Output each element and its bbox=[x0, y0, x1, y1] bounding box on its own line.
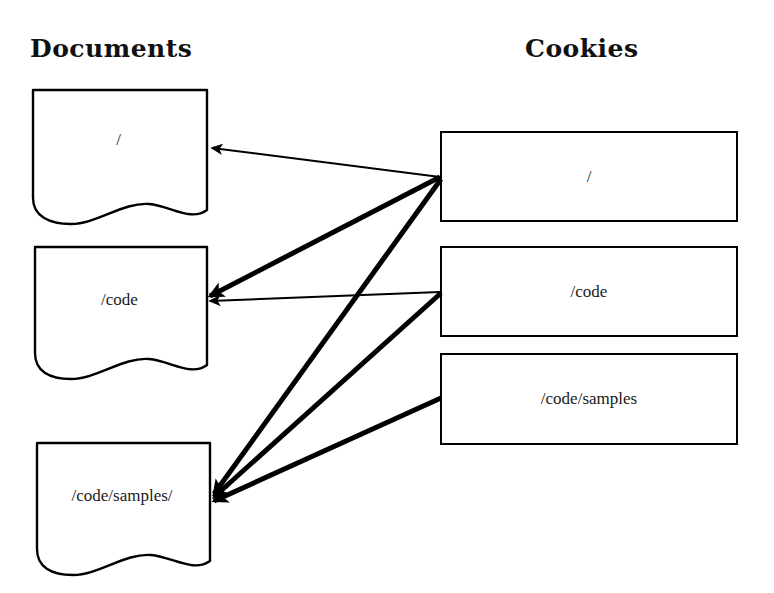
cookie-node-code[interactable]: /code bbox=[440, 246, 738, 337]
arrow-root-to-code-samples bbox=[214, 179, 441, 494]
document-page-shape bbox=[31, 88, 211, 228]
document-label: /code bbox=[33, 290, 206, 310]
arrow-root-to-root bbox=[212, 148, 440, 177]
arrow-root-to-code bbox=[210, 177, 440, 296]
document-label: /code/samples/ bbox=[35, 486, 209, 506]
document-node-code[interactable]: /code bbox=[33, 245, 206, 376]
document-page-shape bbox=[33, 245, 213, 385]
arrow-code-to-code bbox=[210, 292, 440, 301]
document-node-code-samples[interactable]: /code/samples/ bbox=[35, 441, 209, 571]
cookie-node-code-samples[interactable]: /code/samples bbox=[440, 353, 738, 445]
diagram-canvas: Documents Cookies / /code /code/samples/… bbox=[0, 0, 774, 593]
cookies-column-heading: Cookies bbox=[525, 34, 639, 63]
document-page-shape bbox=[35, 441, 220, 581]
cookie-label: /code/samples bbox=[541, 389, 637, 409]
document-node-root[interactable]: / bbox=[31, 88, 206, 221]
document-label: / bbox=[31, 130, 206, 150]
cookie-node-root[interactable]: / bbox=[440, 131, 738, 222]
arrow-code-to-code-samples bbox=[214, 293, 441, 497]
documents-column-heading: Documents bbox=[30, 34, 192, 63]
arrow-code-samples-to-code-samples bbox=[214, 398, 441, 501]
cookie-label: / bbox=[587, 167, 592, 187]
cookie-label: /code bbox=[571, 282, 608, 302]
